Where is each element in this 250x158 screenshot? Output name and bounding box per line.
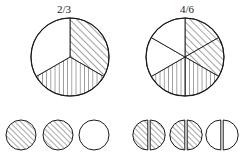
unit-half-right-0 xyxy=(133,120,148,150)
unit-circle-left-1 xyxy=(43,120,73,150)
unit-half-right-5 xyxy=(223,120,238,150)
fraction-diagram-canvas: 2/3 4/6 xyxy=(0,0,250,158)
unit-half-right-1 xyxy=(150,120,165,150)
diagram-svg: 2/3 4/6 xyxy=(0,0,250,158)
unit-half-right-4 xyxy=(206,120,221,150)
unit-circle-left-0 xyxy=(6,120,36,150)
generated-shapes xyxy=(6,18,238,150)
unit-half-right-3 xyxy=(187,120,202,150)
fraction-label-right: 4/6 xyxy=(180,3,195,15)
fraction-label-left: 2/3 xyxy=(57,3,72,15)
unit-half-right-2 xyxy=(170,120,185,150)
unit-circle-left-2 xyxy=(79,120,109,150)
